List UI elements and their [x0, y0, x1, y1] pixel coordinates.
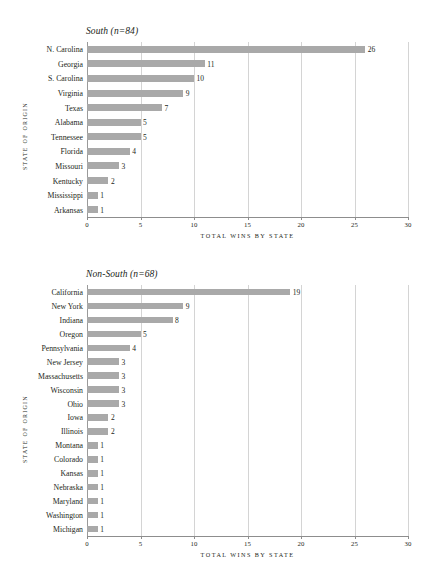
- bar-value-label: 1: [100, 455, 104, 464]
- x-tick-label: 5: [139, 540, 142, 547]
- bar: [87, 119, 141, 126]
- bar: [87, 414, 108, 421]
- gridline-30: [408, 42, 409, 217]
- x-tick-label: 30: [405, 540, 412, 547]
- category-label: Michigan: [53, 525, 83, 534]
- x-tick: [87, 217, 88, 220]
- category-label: Alabama: [55, 118, 83, 127]
- category-label: Pennsylvania: [41, 343, 83, 352]
- bar: [87, 289, 290, 296]
- bar-row: N. Carolina26: [87, 46, 408, 53]
- bar-value-label: 26: [368, 45, 376, 54]
- bar: [87, 177, 108, 184]
- bar-row: Montana1: [87, 442, 408, 449]
- bar-row: Colorado1: [87, 456, 408, 463]
- bar-row: Virginia9: [87, 90, 408, 97]
- bar: [87, 400, 119, 407]
- bar: [87, 303, 183, 310]
- bar: [87, 512, 98, 519]
- x-tick: [248, 536, 249, 539]
- category-label: Oregon: [60, 329, 83, 338]
- bar: [87, 526, 98, 533]
- bar-row: Pennsylvania4: [87, 345, 408, 352]
- bar-value-label: 3: [122, 385, 126, 394]
- category-label: Tennessee: [51, 132, 83, 141]
- category-label: Arkansas: [54, 205, 83, 214]
- bar-row: Iowa2: [87, 414, 408, 421]
- category-label: Indiana: [60, 315, 83, 324]
- category-label: Wisconsin: [50, 385, 83, 394]
- bar-value-label: 1: [100, 511, 104, 520]
- category-label: Kentucky: [53, 176, 83, 185]
- bar: [87, 206, 98, 213]
- x-tick-label: 15: [244, 540, 251, 547]
- bar-value-label: 4: [132, 343, 136, 352]
- x-tick: [87, 536, 88, 539]
- bar: [87, 428, 108, 435]
- category-label: Colorado: [54, 455, 83, 464]
- bar: [87, 317, 173, 324]
- bar-value-label: 3: [122, 371, 126, 380]
- bar-row: Missouri3: [87, 162, 408, 169]
- x-tick: [141, 536, 142, 539]
- bar-row: Wisconsin3: [87, 386, 408, 393]
- bar: [87, 60, 205, 67]
- bar-value-label: 5: [143, 329, 147, 338]
- x-tick: [301, 217, 302, 220]
- bar-row: Mississippi1: [87, 192, 408, 199]
- x-tick-label: 10: [191, 221, 198, 228]
- category-label: New York: [51, 301, 83, 310]
- bar-value-label: 3: [122, 357, 126, 366]
- category-label: Georgia: [58, 59, 83, 68]
- bar-value-label: 5: [143, 132, 147, 141]
- bar: [87, 358, 119, 365]
- bar-row: Oregon5: [87, 331, 408, 338]
- plot-area-nonsouth: California19New York9Indiana8Oregon5Penn…: [87, 285, 408, 536]
- bar-row: Kansas1: [87, 470, 408, 477]
- chart-title-nonsouth: Non-South (n=68): [86, 269, 158, 279]
- category-label: Massachusetts: [38, 371, 83, 380]
- bar-value-label: 9: [186, 301, 190, 310]
- x-tick: [248, 217, 249, 220]
- bar-value-label: 3: [122, 161, 126, 170]
- chart-panel-nonsouth: Non-South (n=68) STATE OF ORIGIN Califor…: [0, 263, 425, 585]
- plot-area-south: N. Carolina26Georgia11S. Carolina10Virgi…: [87, 42, 408, 217]
- bar: [87, 372, 119, 379]
- category-label: Missouri: [55, 161, 83, 170]
- category-label: Washington: [46, 511, 83, 520]
- bar: [87, 498, 98, 505]
- category-label: Iowa: [67, 413, 83, 422]
- bar-value-label: 11: [207, 59, 214, 68]
- bar-row: Maryland1: [87, 498, 408, 505]
- bar-value-label: 9: [186, 89, 190, 98]
- category-label: N. Carolina: [47, 45, 83, 54]
- bar: [87, 162, 119, 169]
- bar: [87, 133, 141, 140]
- y-axis-title-nonsouth: STATE OF ORIGIN: [22, 395, 28, 463]
- bar: [87, 46, 365, 53]
- bar-row: Washington1: [87, 512, 408, 519]
- bar-row: New Jersey3: [87, 358, 408, 365]
- bar-value-label: 2: [111, 176, 115, 185]
- category-label: Illinois: [61, 427, 83, 436]
- bar-value-label: 8: [175, 315, 179, 324]
- bar-value-label: 5: [143, 118, 147, 127]
- bar-row: Ohio3: [87, 400, 408, 407]
- bar-row: Michigan1: [87, 526, 408, 533]
- bar-row: Nebraska1: [87, 484, 408, 491]
- x-tick-label: 30: [405, 221, 412, 228]
- bar: [87, 345, 130, 352]
- category-label: Ohio: [67, 399, 83, 408]
- category-label: Maryland: [53, 497, 83, 506]
- x-tick-label: 0: [85, 221, 88, 228]
- gridline-30: [408, 285, 409, 536]
- category-label: Mississippi: [47, 191, 83, 200]
- bar-row: New York9: [87, 303, 408, 310]
- bar-row: Georgia11: [87, 60, 408, 67]
- bar-row: Illinois2: [87, 428, 408, 435]
- bar-row: Massachusetts3: [87, 372, 408, 379]
- bar-row: Florida4: [87, 148, 408, 155]
- bar-row: Indiana8: [87, 317, 408, 324]
- x-tick: [408, 217, 409, 220]
- category-label: New Jersey: [47, 357, 83, 366]
